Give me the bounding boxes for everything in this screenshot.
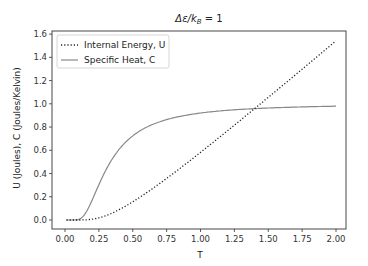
x-tick-label: 0.25 [89,234,108,244]
x-tick-label: 1.50 [259,234,278,244]
y-tick-label: 0.2 [33,192,47,202]
y-tick-label: 1.6 [33,29,47,39]
legend: Internal Energy, U Specific Heat, C [57,35,169,68]
y-tick-label: 1.4 [33,52,47,62]
chart-title: Δε/kB = 1 [174,13,222,26]
legend-item-c: Specific Heat, C [84,55,155,65]
y-axis-label: U (Joules), C (Joules/Kelvin) [12,67,22,189]
x-tick-label: 1.25 [225,234,244,244]
y-tick-label: 0.4 [33,169,47,179]
y-tick-label: 0.8 [33,122,47,132]
x-tick-label: 1.75 [293,234,312,244]
x-tick-label: 1.00 [191,234,210,244]
chart: Δε/kB = 1 0.000.250.500.751.001.251.501.… [0,0,368,266]
x-tick-label: 2.00 [327,234,346,244]
y-tick-label: 1.0 [33,99,47,109]
x-tick-label: 0.50 [123,234,142,244]
legend-item-u: Internal Energy, U [84,40,165,50]
specific-heat-line [66,106,336,220]
y-tick-label: 1.2 [33,76,47,86]
x-tick-label: 0.00 [56,234,75,244]
x-tick-label: 0.75 [157,234,176,244]
x-axis-label: T [196,250,203,260]
y-tick-label: 0.6 [33,145,47,155]
y-tick-label: 0.0 [33,215,47,225]
